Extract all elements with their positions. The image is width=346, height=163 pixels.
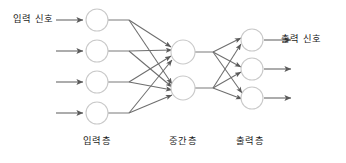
node-input-2 [86, 40, 108, 62]
output-signal-label: 출력 신호 [281, 34, 321, 43]
output-signal-arrows [264, 40, 291, 98]
node-output-3 [241, 87, 263, 109]
input-to-hidden-edges [129, 20, 172, 113]
node-output-2 [241, 58, 263, 80]
input-signal-arrows [56, 20, 83, 113]
node-hidden-1 [171, 40, 195, 64]
output-layer-label: 출력층 [219, 136, 281, 145]
input-layer-label: 입력층 [66, 136, 128, 145]
input-layer-nodes [86, 9, 108, 124]
output-layer-nodes [241, 29, 263, 109]
node-input-3 [86, 71, 108, 93]
hidden-to-output-edges [213, 38, 242, 99]
hidden-stub-lines [195, 52, 213, 88]
node-hidden-2 [171, 76, 195, 100]
input-stub-lines [108, 20, 129, 113]
node-input-4 [86, 102, 108, 124]
hidden-layer-label: 중간층 [152, 136, 214, 145]
node-input-1 [86, 9, 108, 31]
neural-network-diagram: 입력 신호 출력 신호 입력층 중간층 출력층 [0, 0, 346, 163]
input-signal-label: 입력 신호 [13, 14, 53, 23]
hidden-layer-nodes [171, 40, 195, 100]
node-output-1 [241, 29, 263, 51]
